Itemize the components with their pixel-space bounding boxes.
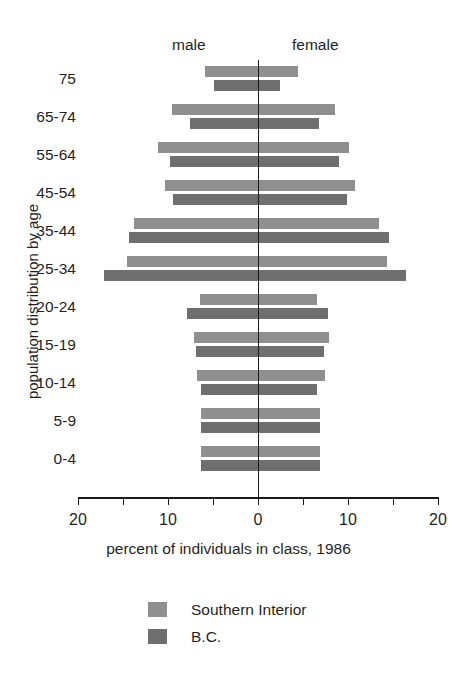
age-group-label: 5-9 bbox=[0, 402, 76, 440]
bar-si bbox=[205, 66, 298, 77]
age-group-label: 25-34 bbox=[0, 250, 76, 288]
bar-si bbox=[194, 332, 329, 343]
bar-si bbox=[165, 180, 355, 191]
bar-si bbox=[134, 218, 379, 229]
bar-bc bbox=[214, 80, 281, 91]
bar-bc bbox=[190, 118, 320, 129]
age-group-label: 35-44 bbox=[0, 212, 76, 250]
bar-bc bbox=[201, 422, 320, 433]
age-group-label: 55-64 bbox=[0, 136, 76, 174]
legend-item: B.C. bbox=[148, 623, 306, 650]
bar-si bbox=[197, 370, 325, 381]
x-axis-tick bbox=[303, 497, 304, 505]
age-group-label: 10-14 bbox=[0, 364, 76, 402]
bar-si bbox=[172, 104, 336, 115]
x-axis-line bbox=[78, 497, 438, 499]
male-side-label: male bbox=[172, 36, 206, 54]
bar-si bbox=[158, 142, 349, 153]
female-side-label: female bbox=[292, 36, 339, 54]
x-axis-tick bbox=[78, 497, 79, 505]
x-axis-tick bbox=[258, 497, 259, 505]
x-axis-tick bbox=[438, 497, 439, 505]
age-group-label: 15-19 bbox=[0, 326, 76, 364]
x-axis-tick bbox=[213, 497, 214, 505]
age-group-label: 0-4 bbox=[0, 440, 76, 478]
age-group-label: 65-74 bbox=[0, 98, 76, 136]
x-axis-tick-label: 10 bbox=[318, 511, 378, 529]
x-axis-tick bbox=[123, 497, 124, 505]
bar-bc bbox=[201, 460, 320, 471]
bar-bc bbox=[196, 346, 324, 357]
x-axis-tick-label: 0 bbox=[228, 511, 288, 529]
legend-swatch-icon bbox=[148, 602, 167, 617]
bar-bc bbox=[170, 156, 339, 167]
legend-label: Southern Interior bbox=[191, 601, 306, 619]
x-axis-tick-label: 20 bbox=[408, 511, 457, 529]
legend-item: Southern Interior bbox=[148, 596, 306, 623]
x-axis-title: percent of individuals in class, 1986 bbox=[0, 540, 457, 558]
age-group-label: 20-24 bbox=[0, 288, 76, 326]
chart-legend: Southern InteriorB.C. bbox=[148, 596, 306, 650]
zero-axis-line bbox=[258, 60, 259, 497]
plot-area: 7565-7455-6445-5435-4425-3420-2415-1910-… bbox=[78, 60, 438, 497]
x-axis-tick bbox=[348, 497, 349, 505]
x-axis-tick bbox=[393, 497, 394, 505]
bar-si bbox=[201, 446, 320, 457]
bar-si bbox=[201, 408, 320, 419]
bar-bc bbox=[173, 194, 347, 205]
legend-label: B.C. bbox=[191, 628, 221, 646]
x-axis-tick-label: 10 bbox=[138, 511, 198, 529]
x-axis-tick-label: 20 bbox=[48, 511, 108, 529]
age-group-label: 75 bbox=[0, 60, 76, 98]
age-group-label: 45-54 bbox=[0, 174, 76, 212]
bar-si bbox=[127, 256, 387, 267]
legend-swatch-icon bbox=[148, 629, 167, 644]
population-pyramid-figure: population distribution by age male fema… bbox=[0, 0, 457, 675]
bar-bc bbox=[104, 270, 406, 281]
x-axis-tick bbox=[168, 497, 169, 505]
